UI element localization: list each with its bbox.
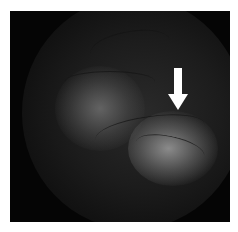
retinal-vessel: [65, 71, 155, 92]
fundus-image: [10, 11, 230, 222]
arrow-down-icon: [168, 68, 188, 110]
